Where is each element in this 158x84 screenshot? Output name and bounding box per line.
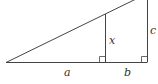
right-angle-marker-inner — [100, 57, 106, 63]
label-c: c — [150, 24, 156, 37]
triangle-diagram: a b x c — [0, 0, 158, 84]
right-angle-marker-outer — [142, 57, 148, 63]
label-x: x — [109, 34, 116, 47]
label-b: b — [124, 66, 131, 79]
label-a: a — [64, 66, 71, 79]
hypotenuse-line — [6, 0, 136, 63]
